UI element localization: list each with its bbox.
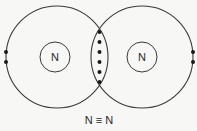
shared-electron	[98, 70, 102, 74]
right-lone-pair-electron	[191, 50, 195, 54]
left-lone-pair-electron	[4, 50, 8, 54]
left-lone-pair-electron	[4, 60, 8, 64]
shared-electron	[98, 50, 102, 54]
shared-electron	[98, 40, 102, 44]
right-atom-symbol: N	[138, 51, 146, 63]
shared-electron	[98, 30, 102, 34]
bond-formula-label: N ≡ N	[85, 114, 113, 126]
left-atom-symbol: N	[51, 51, 59, 63]
shared-electron	[98, 80, 102, 84]
right-lone-pair-electron	[191, 60, 195, 64]
nitrogen-molecule-diagram: N N N ≡ N	[0, 0, 197, 131]
shared-electron	[98, 60, 102, 64]
